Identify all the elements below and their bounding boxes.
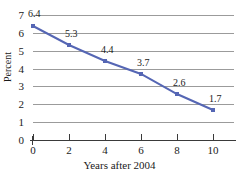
series-line (0, 0, 239, 177)
data-point-10 (211, 108, 215, 112)
data-point-2 (67, 43, 71, 47)
data-label-4: 4.4 (101, 45, 114, 55)
data-label-6: 3.7 (137, 58, 150, 68)
data-label-2: 5.3 (65, 29, 78, 39)
y-axis-title: Percent (3, 37, 13, 97)
data-point-8 (175, 92, 179, 96)
line-chart: 7 6 5 4 3 2 1 0 0 2 4 6 8 10 6.4 5.3 4.4… (0, 0, 239, 177)
data-label-0: 6.4 (28, 9, 41, 19)
data-point-6 (139, 72, 143, 76)
data-point-4 (103, 59, 107, 63)
data-point-0 (31, 24, 35, 28)
data-label-8: 2.6 (173, 78, 186, 88)
x-axis-title: Years after 2004 (0, 160, 239, 171)
data-label-10: 1.7 (209, 94, 222, 104)
